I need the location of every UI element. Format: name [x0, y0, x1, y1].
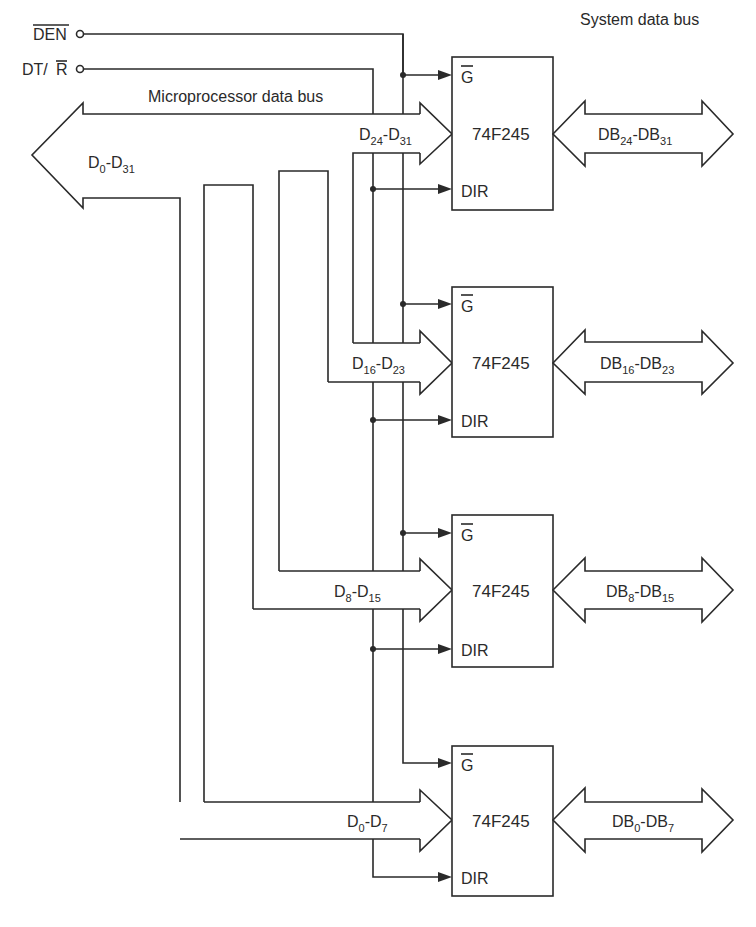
transceiver-1: G 74F245 DIR D24-D31 DB24-DB31	[359, 57, 733, 210]
dtr-terminal	[77, 66, 84, 73]
bus-channel-edges	[180, 343, 420, 839]
dtr-vertical-wire	[373, 153, 440, 877]
transceiver-3: G 74F245 DIR D8-D15 DB8-DB15	[334, 515, 733, 667]
pin-dir-label: DIR	[461, 413, 489, 430]
pin-g-label: G	[461, 757, 473, 774]
den-label: DEN	[33, 26, 67, 43]
chip-label: 74F245	[472, 125, 530, 144]
input-bus-label: D8-D15	[334, 583, 381, 604]
dtr-label-prefix: DT/	[22, 61, 48, 78]
pin-dir-label: DIR	[461, 183, 489, 200]
system-bus-label: System data bus	[580, 11, 699, 28]
pin-dir-label: DIR	[461, 642, 489, 659]
den-terminal	[77, 31, 84, 38]
input-bus-label: D16-D23	[352, 355, 405, 376]
pin-dir-label: DIR	[461, 870, 489, 887]
pin-g-label: G	[461, 69, 473, 86]
pin-arrowheads	[438, 70, 452, 882]
svg-text:D0-D31: D0-D31	[88, 154, 135, 175]
main-bus-label: D0-D31	[88, 154, 135, 175]
bus-transceiver-diagram: DEN DT/ R Microprocessor data bus System…	[0, 0, 756, 927]
pin-g-label: G	[461, 527, 473, 544]
input-bus-label: D0-D7	[347, 813, 388, 834]
microprocessor-bus-outline	[32, 103, 420, 802]
chip-label: 74F245	[472, 354, 530, 373]
dtr-label-r: R	[56, 61, 68, 78]
chip-label: 74F245	[472, 812, 530, 831]
input-bus-label: D24-D31	[359, 126, 412, 147]
chip-label: 74F245	[472, 582, 530, 601]
den-vertical-wire	[403, 153, 440, 763]
transceiver-4: G 74F245 DIR D0-D7 DB0-DB7	[347, 746, 733, 896]
pin-g-label: G	[461, 298, 473, 315]
microprocessor-bus-label: Microprocessor data bus	[148, 88, 323, 105]
transceiver-2: G 74F245 DIR D16-D23 DB16-DB23	[352, 287, 733, 437]
bus-arrowheads-in	[420, 103, 452, 851]
